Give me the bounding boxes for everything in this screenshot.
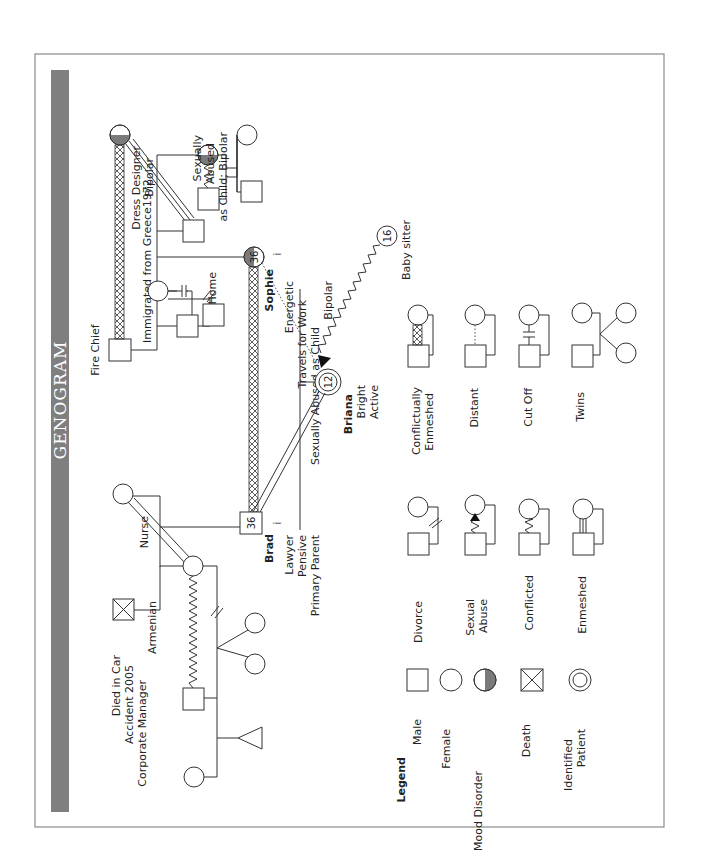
sophie-desc-4: Bipolar	[322, 281, 335, 320]
fire-chief-label: Fire Chief	[89, 323, 102, 376]
briana-desc-2: Active	[368, 385, 381, 419]
sophie-sep: i	[272, 253, 283, 256]
nurse-symbol[interactable]	[113, 484, 133, 504]
page-title: GENOGRAM	[50, 341, 70, 460]
legend-enmeshed-label: Enmeshed	[576, 576, 589, 634]
babysitter-age: 16	[382, 230, 393, 243]
babysitter-label: Baby sitter	[400, 220, 413, 280]
legend-mood-disorder-icon	[474, 669, 496, 691]
legend-cut-off-label: Cut Off	[522, 388, 535, 427]
sophie-desc-2: Travels for Work	[296, 299, 309, 389]
brad-desc-2: Pensive	[296, 535, 309, 577]
at-home-symbol[interactable]	[183, 220, 204, 242]
legend-twins-label: Twins	[574, 392, 587, 423]
deceased-grandfather-symbol[interactable]	[113, 599, 134, 620]
briana-name: Briana	[342, 394, 355, 434]
armenian-label: Armenian	[146, 601, 159, 654]
genogram-page: GENOGRAM Fire Chief Dress Designer Bipol…	[0, 0, 701, 867]
conflictual-enmeshed-line	[115, 145, 124, 339]
aunt-child-male[interactable]	[241, 181, 262, 202]
legend-male-icon	[407, 669, 428, 691]
legend-female-label: Female	[440, 729, 453, 769]
brad-sophie-conflictual-enmeshed-line	[249, 267, 258, 512]
brad-name: Brad	[263, 534, 276, 563]
legend-distant-label: Distant	[468, 387, 481, 427]
second-spouse-symbol[interactable]	[203, 304, 224, 326]
legend-ip-label-2: Patient	[575, 728, 588, 767]
legend-ip-label-1: Identified	[562, 739, 575, 791]
legend-sexual-abuse-label-1: Sexual	[464, 599, 477, 636]
nurse-label: Nurse	[138, 516, 151, 548]
legend-conflicted-label: Conflicted	[523, 575, 536, 630]
briana-desc-1: Bright	[355, 384, 368, 418]
brad-desc-1: Lawyer	[283, 535, 296, 575]
aunt-child-female[interactable]	[237, 125, 257, 145]
sophie-name: Sophie	[263, 269, 276, 311]
legend-male-label: Male	[411, 719, 424, 745]
legend-identified-patient-icon	[569, 669, 591, 691]
brad-desc-3: Primary Parent	[309, 534, 322, 616]
armenian-grandmother-symbol[interactable]	[183, 556, 203, 576]
sophie-brother-partner[interactable]	[148, 281, 168, 301]
legend-death-icon	[521, 669, 543, 691]
sophie-desc-1: Energetic	[283, 281, 296, 333]
twin-1-symbol[interactable]	[245, 613, 265, 633]
grandfather-label-1: Died in Car	[110, 655, 123, 717]
legend-death-label: Death	[520, 724, 533, 757]
immigration-note: Immigrated from Greece1972	[141, 179, 154, 343]
legend-female-icon	[440, 669, 462, 691]
uncle-symbol[interactable]	[183, 688, 204, 710]
legend-sexual-abuse-label-2: Abuse	[477, 599, 490, 633]
sophie-age: 36	[249, 251, 260, 264]
aunt-label-1: Sexually	[191, 135, 204, 182]
aunt-spouse-symbol[interactable]	[198, 188, 219, 210]
legend-conflictually-enmeshed-label-2: Enmeshed	[423, 393, 436, 451]
sophie-brother-symbol[interactable]	[177, 315, 198, 337]
grandfather-label-2: Accident 2005	[123, 665, 136, 744]
aunt-label-2: Abused	[204, 143, 217, 184]
cousin-female-symbol[interactable]	[184, 767, 204, 787]
twin-2-symbol[interactable]	[245, 654, 265, 674]
dress-designer-symbol[interactable]	[110, 125, 130, 145]
legend-conflictually-enmeshed-label-1: Conflictually	[410, 387, 423, 456]
sophie-desc-3: Sexually Abused as Child	[309, 327, 322, 465]
brad-age: 36	[246, 517, 257, 530]
legend-divorce-label: Divorce	[412, 601, 425, 643]
fire-chief-symbol[interactable]	[109, 339, 131, 361]
legend-title: Legend	[395, 757, 408, 803]
legend-mood-label: Mood Disorder	[472, 771, 485, 851]
brad-sep: i	[272, 522, 283, 525]
briana-age: 12	[323, 376, 334, 389]
grandfather-label-3: Corporate Manager	[136, 680, 149, 787]
